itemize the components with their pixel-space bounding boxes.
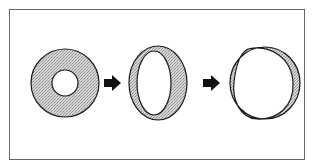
- diagram-frame: [10, 10, 305, 160]
- transformation-diagram: [0, 0, 319, 167]
